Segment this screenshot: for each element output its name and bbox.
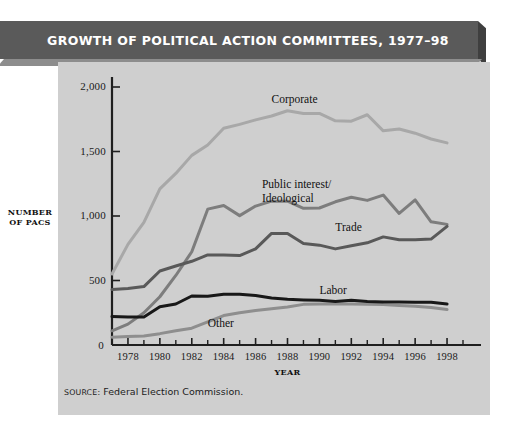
x-tick-label-1996: 1996 xyxy=(398,351,432,362)
series-label-trade: Trade xyxy=(335,221,361,235)
x-tick-label-1994: 1994 xyxy=(366,351,400,362)
y-tick-label-0: 0 xyxy=(58,339,104,351)
y-axis-title-line1: NUMBER xyxy=(2,207,58,217)
y-tick-label-500: 500 xyxy=(60,274,106,286)
y-tick-label-1500: 1,500 xyxy=(60,145,106,157)
x-tick-label-1998: 1998 xyxy=(430,351,464,362)
source-label: SOURCE: xyxy=(64,388,100,397)
x-tick-label-1992: 1992 xyxy=(334,351,368,362)
series-label-public-interest-ideological-line1: Public interest/ xyxy=(262,178,331,192)
x-tick-label-1990: 1990 xyxy=(302,351,336,362)
series-line-other xyxy=(112,304,447,337)
series-line-public-interest-ideological xyxy=(112,195,447,331)
series-label-corporate: Corporate xyxy=(272,93,318,107)
chart-title: GROWTH OF POLITICAL ACTION COMMITTEES, 1… xyxy=(0,21,478,59)
chart-page: GROWTH OF POLITICAL ACTION COMMITTEES, 1… xyxy=(0,0,515,441)
y-tick-label-2000: 2,000 xyxy=(60,80,106,92)
y-tick-label-1000: 1,000 xyxy=(60,209,106,221)
x-tick-label-1986: 1986 xyxy=(239,351,273,362)
chart-svg xyxy=(58,62,490,415)
x-tick-label-1980: 1980 xyxy=(143,351,177,362)
source-text: Federal Election Commission. xyxy=(103,386,243,397)
y-axis-title: NUMBEROF PACS xyxy=(2,207,58,227)
chart-panel xyxy=(58,62,490,415)
plot-area xyxy=(58,62,490,415)
series-label-labor: Labor xyxy=(319,284,346,298)
x-tick-label-1988: 1988 xyxy=(271,351,305,362)
title-banner: GROWTH OF POLITICAL ACTION COMMITTEES, 1… xyxy=(0,21,487,66)
x-tick-label-1978: 1978 xyxy=(111,351,145,362)
x-axis-title: YEAR xyxy=(268,367,308,377)
x-tick-label-1984: 1984 xyxy=(207,351,241,362)
x-tick-label-1982: 1982 xyxy=(175,351,209,362)
y-axis-title-line2: OF PACS xyxy=(2,217,58,227)
series-label-public-interest-ideological: Public interest/Ideological xyxy=(262,178,331,206)
series-line-trade xyxy=(112,226,447,289)
series-label-other: Other xyxy=(208,317,234,331)
series-label-public-interest-ideological-line2: Ideological xyxy=(262,192,331,206)
source-note: SOURCE: Federal Election Commission. xyxy=(64,386,243,397)
